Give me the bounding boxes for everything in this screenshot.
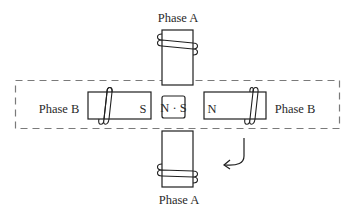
label-left-pole-polarity: S	[140, 102, 147, 116]
label-phase-b-right: Phase B	[275, 102, 316, 116]
stepper-motor-diagram: Phase A Phase A Phase B Phase B S N N · …	[0, 0, 353, 214]
bottom-pole-phase-a	[158, 131, 198, 187]
label-phase-a-top: Phase A	[158, 11, 199, 25]
rotation-arrow-icon	[224, 138, 244, 169]
label-rotor: N · S	[160, 101, 186, 115]
top-pole-phase-a	[158, 30, 198, 85]
label-right-pole-polarity: N	[207, 102, 216, 116]
label-phase-b-left: Phase B	[39, 102, 80, 116]
label-phase-a-bottom: Phase A	[159, 193, 200, 207]
